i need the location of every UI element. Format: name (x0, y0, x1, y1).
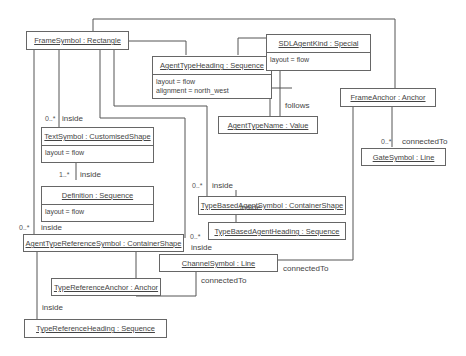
agent-type-name-box[interactable]: AgentTypeName : Value (218, 116, 318, 134)
definition-multiplicity: 1..* (59, 171, 70, 178)
box-title: TextSymbol : CustomisedShape (42, 128, 153, 145)
channel-connected-to-label-right: connectedTo (283, 264, 328, 273)
gate-symbol-box[interactable]: GateSymbol : Line (361, 148, 446, 166)
follows-label: follows (285, 101, 309, 110)
type-based-agent-symbol-box[interactable]: TypeBasedAgentSymbol : ContainerShape (198, 196, 346, 215)
connector-lines (0, 0, 466, 356)
box-title: AgentTypeReferenceSymbol : ContainerShap… (24, 235, 183, 252)
sdl-agent-kind-box[interactable]: SDLAgentKind : Special layout = flow (266, 34, 371, 71)
agent-type-ref-inside-label: inside (41, 223, 62, 232)
attr-layout: layout = flow (270, 55, 367, 64)
definition-box[interactable]: Definition : Sequence layout = flow (41, 186, 154, 222)
text-symbol-inside-label: inside (62, 114, 83, 123)
box-title: FrameAnchor : Anchor (341, 89, 435, 106)
attr-layout: layout = flow (45, 148, 150, 157)
type-reference-anchor-box[interactable]: TypeReferenceAnchor : Anchor (51, 278, 161, 296)
channel-multiplicity: 0..* (190, 233, 201, 240)
channel-symbol-box[interactable]: ChannelSymbol : Line (159, 254, 278, 272)
channel-connected-to-label-bottom: connectedTo (201, 276, 246, 285)
attr-alignment: alignment = north_west (156, 86, 268, 95)
definition-inside-label: inside (80, 170, 101, 179)
box-title: GateSymbol : Line (362, 149, 445, 166)
gate-connected-to-label: connectedTo (402, 137, 447, 146)
box-title: Definition : Sequence (42, 187, 153, 204)
box-title: TypeBasedAgentSymbol : ContainerShape (199, 197, 345, 214)
frame-anchor-box[interactable]: FrameAnchor : Anchor (340, 88, 436, 107)
box-title: TypeReferenceHeading : Sequence (25, 320, 166, 337)
agent-type-reference-symbol-box[interactable]: AgentTypeReferenceSymbol : ContainerShap… (23, 234, 184, 252)
box-attributes: layout = flow alignment = north_west (153, 74, 271, 97)
box-title: TypeReferenceAnchor : Anchor (52, 279, 160, 296)
box-title: ChannelSymbol : Line (160, 255, 277, 272)
attr-layout: layout = flow (156, 77, 268, 86)
text-symbol-multiplicity: 0..* (45, 115, 56, 122)
box-title: AgentTypeName : Value (219, 117, 317, 134)
channel-inside-label: inside (191, 243, 212, 252)
box-title: FrameSymbol : Rectangle (27, 32, 128, 49)
box-title: TypeBasedAgentHeading : Sequence (209, 223, 345, 240)
box-attributes: layout = flow (267, 52, 370, 66)
frame-symbol-box[interactable]: FrameSymbol : Rectangle (26, 31, 129, 50)
type-based-agent-multiplicity: 0..* (192, 182, 203, 189)
type-based-agent-heading-box[interactable]: TypeBasedAgentHeading : Sequence (208, 222, 346, 240)
type-based-agent-inside-label: inside (212, 181, 233, 190)
agent-type-ref-multiplicity: 0..* (19, 224, 30, 231)
type-reference-heading-box[interactable]: TypeReferenceHeading : Sequence (24, 319, 167, 338)
type-ref-heading-inside-label: inside (42, 303, 63, 312)
gate-multiplicity: 0..* (381, 138, 392, 145)
agent-type-heading-box[interactable]: AgentTypeHeading : Sequence layout = flo… (152, 56, 272, 99)
attr-layout: layout = flow (45, 207, 150, 216)
box-title: SDLAgentKind : Special (267, 35, 370, 52)
text-symbol-box[interactable]: TextSymbol : CustomisedShape layout = fl… (41, 127, 154, 163)
box-attributes: layout = flow (42, 204, 153, 218)
box-title: AgentTypeHeading : Sequence (153, 57, 271, 74)
type-based-heading-inside-label: inside (240, 203, 261, 212)
box-attributes: layout = flow (42, 145, 153, 159)
